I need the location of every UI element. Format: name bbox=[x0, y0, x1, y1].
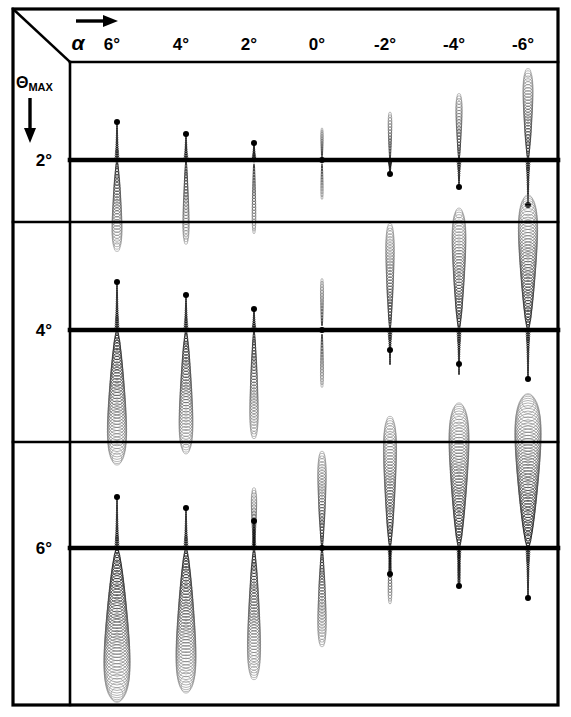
data-dot-marker bbox=[525, 376, 531, 382]
column-header-2: 2° bbox=[241, 35, 257, 54]
data-dot-marker bbox=[387, 171, 393, 177]
canvas-background bbox=[0, 0, 571, 717]
data-dot-marker bbox=[387, 347, 393, 353]
data-dot-marker bbox=[525, 595, 531, 601]
theta-symbol: Θ bbox=[16, 74, 28, 91]
data-dot-marker bbox=[183, 505, 189, 511]
data-dot-marker bbox=[251, 306, 257, 312]
data-dot-marker bbox=[183, 131, 189, 137]
column-header-5: -4° bbox=[443, 35, 465, 54]
data-dot-marker bbox=[183, 292, 189, 298]
data-dot-marker bbox=[456, 184, 462, 190]
figure-root: α6°4°2°0°-2°-4°-6°ΘMAX2°4°6° bbox=[0, 0, 571, 717]
alpha-axis-label: α bbox=[71, 31, 85, 54]
data-dot-marker bbox=[456, 361, 462, 367]
row-header-0: 2° bbox=[36, 151, 52, 170]
data-dot-marker bbox=[251, 518, 257, 524]
data-dot-marker bbox=[114, 119, 120, 125]
trajectory-matrix-svg: α6°4°2°0°-2°-4°-6°ΘMAX2°4°6° bbox=[0, 0, 571, 717]
theta-subscript: MAX bbox=[28, 81, 53, 93]
column-header-1: 4° bbox=[173, 35, 189, 54]
data-dot-marker bbox=[114, 494, 120, 500]
data-dot-marker bbox=[251, 140, 257, 146]
column-header-6: -6° bbox=[512, 35, 534, 54]
column-header-3: 0° bbox=[309, 35, 325, 54]
column-header-0: 6° bbox=[104, 35, 120, 54]
column-header-4: -2° bbox=[374, 35, 396, 54]
row-header-1: 4° bbox=[36, 321, 52, 340]
data-dot-marker bbox=[114, 279, 120, 285]
data-dot-marker bbox=[456, 583, 462, 589]
data-dot-marker bbox=[387, 571, 393, 577]
row-header-2: 6° bbox=[36, 539, 52, 558]
